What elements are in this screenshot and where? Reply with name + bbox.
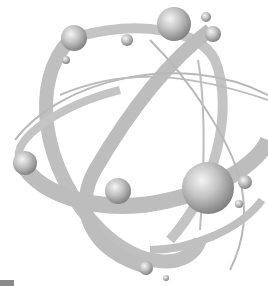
sphere (238, 175, 252, 189)
orbit-ring-vertical (46, 28, 223, 261)
sphere (201, 12, 211, 22)
atom-illustration (0, 0, 268, 286)
sphere (182, 162, 234, 214)
sphere (121, 34, 133, 46)
corner-bar (0, 280, 14, 286)
sphere (139, 261, 153, 275)
sphere (105, 178, 131, 204)
sphere (13, 151, 37, 175)
sphere (62, 56, 70, 64)
sphere (157, 7, 191, 41)
sphere (61, 25, 87, 51)
sphere (163, 275, 169, 281)
sphere (205, 26, 221, 42)
sphere (235, 200, 243, 208)
